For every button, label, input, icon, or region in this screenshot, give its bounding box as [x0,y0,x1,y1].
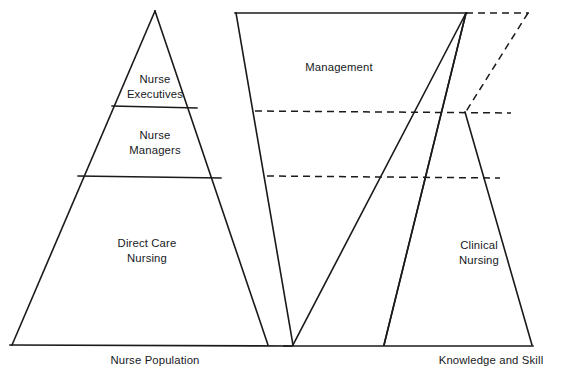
pyramid-divider-executives-managers [112,106,197,108]
pyramid-base-edge [10,345,292,346]
management-left-edge [236,13,293,345]
clinical-right-edge [465,112,532,345]
band-divider-lower [267,176,500,178]
band-divider-upper [255,111,511,113]
clinical-left-edge [293,13,466,345]
figure-canvas: Nurse Executives Nurse Managers Direct C… [0,0,583,374]
axis-label-nurse-population: Nurse Population [110,353,199,367]
pyramid-left-edge [12,11,155,345]
pyramid-divider-managers-directcare [78,176,221,178]
axis-label-knowledge-and-skill: Knowledge and Skill [439,353,544,367]
figure-linework [0,0,583,374]
clinical-inner-left-edge [384,13,466,345]
clinical-right-dashed-edge [465,13,528,113]
